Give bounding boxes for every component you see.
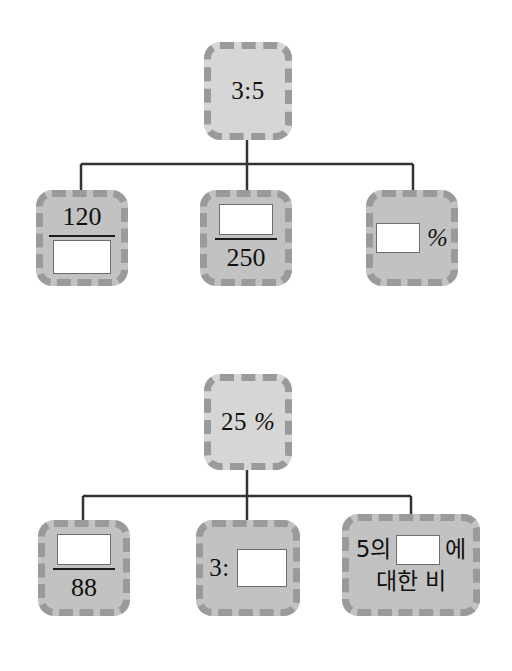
ratio-left-term-label: 3: (209, 553, 229, 583)
fraction-blank-over-250: 250 (215, 203, 277, 274)
korean-text-before-blank: 5의 (356, 535, 392, 564)
node-ratio-3-colon-blank[interactable]: 3: (196, 520, 300, 616)
fraction-denominator-slot (49, 239, 115, 275)
connector-tree-2 (83, 470, 411, 520)
korean-text-after-blank: 에 (445, 535, 466, 564)
node-fraction-120-over-blank[interactable]: 120 (36, 190, 128, 286)
root-node-25-percent-content: 25 % (221, 407, 275, 437)
fraction-denominator-88: 88 (67, 572, 101, 604)
fraction-bar (49, 235, 115, 237)
answer-blank-box[interactable] (57, 534, 111, 565)
diagram-canvas: 3:5 120 250 % 25 % (0, 0, 512, 671)
korean-text-line-2: 대한 비 (376, 567, 446, 596)
answer-blank-box[interactable] (237, 549, 287, 587)
root-node-25-percent[interactable]: 25 % (204, 374, 292, 470)
fraction-numerator-slot (53, 533, 115, 566)
answer-blank-box[interactable] (396, 535, 440, 565)
answer-blank-box[interactable] (376, 223, 420, 253)
fraction-denominator-250: 250 (223, 242, 270, 274)
fraction-120-over-blank: 120 (49, 201, 115, 275)
fraction-numerator-slot (215, 203, 277, 236)
node-korean-ratio-phrase[interactable]: 5의 에 대한 비 (342, 514, 480, 616)
root-node-ratio-3-5-label: 3:5 (231, 76, 264, 106)
node-blank-percent-content: % (376, 223, 448, 253)
node-ratio-3-colon-blank-content: 3: (209, 549, 286, 587)
percent-sign-label: % (427, 223, 448, 253)
node-blank-percent[interactable]: % (366, 190, 458, 286)
fraction-bar (53, 568, 115, 570)
answer-blank-box[interactable] (53, 240, 111, 274)
root-node-25-percent-number: 25 (221, 407, 247, 437)
korean-phrase-line-1: 5의 에 (356, 535, 467, 565)
fraction-blank-over-88: 88 (53, 533, 115, 604)
korean-phrase-line-2: 대한 비 (376, 567, 446, 596)
percent-sign-label: % (254, 407, 275, 437)
node-fraction-blank-over-88[interactable]: 88 (38, 520, 130, 616)
fraction-numerator-120: 120 (59, 201, 106, 233)
korean-phrase-lines: 5의 에 대한 비 (356, 535, 467, 596)
node-fraction-blank-over-250[interactable]: 250 (200, 190, 292, 286)
connector-tree-1 (81, 140, 413, 190)
root-node-ratio-3-5-content: 3:5 (231, 76, 264, 106)
fraction-bar (215, 238, 277, 240)
root-node-ratio-3-5[interactable]: 3:5 (204, 42, 292, 140)
answer-blank-box[interactable] (219, 204, 273, 235)
